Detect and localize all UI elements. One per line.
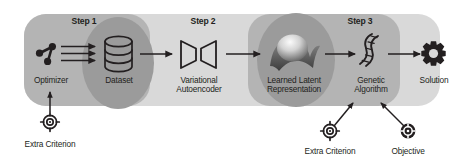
node-label-latent: Learned Latent Representation [249,76,339,95]
arrow-extra-criterion-right-to-genetic [334,103,353,126]
crosshair-target-icon [41,113,60,132]
pipeline-diagram: Step 1 Step 2 Step 3 Optimizer Dataset V… [0,0,464,160]
node-label-dataset: Dataset [90,76,148,85]
arrow-objective-to-genetic [381,103,404,126]
input-label-extra-criterion-left: Extra Criterion [8,140,92,149]
node-label-vae: Variational Autoencoder [160,76,238,95]
input-label-extra-criterion-right: Extra Criterion [288,147,372,156]
step-label-1: Step 1 [47,17,121,27]
node-label-optimizer: Optimizer [20,76,82,85]
node-label-solution: Solution [405,76,463,85]
gear-icon [421,41,445,65]
input-label-objective: Objective [380,147,436,156]
step-label-3: Step 3 [323,17,397,27]
crosshair-target-icon [321,122,340,141]
step-label-2: Step 2 [166,17,240,27]
node-label-genetic: Genetic Algorithm [340,76,402,95]
